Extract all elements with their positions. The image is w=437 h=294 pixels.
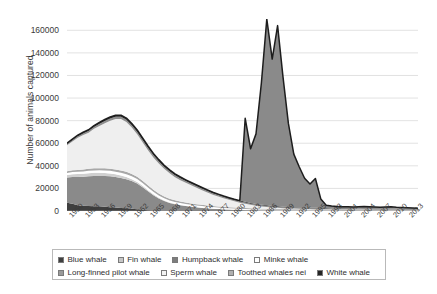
legend-label: White whale	[326, 268, 370, 278]
legend-swatch-icon	[58, 270, 64, 276]
y-axis-tick-labels: 0200004000060000800001000001200001400001…	[0, 0, 64, 211]
chart-legend: Blue whaleFin whaleHumpback whaleMinke w…	[52, 249, 386, 280]
legend-item[interactable]: Long-finned pilot whale	[58, 268, 150, 278]
y-tick-label: 80000	[35, 116, 59, 126]
y-tick-label: 120000	[31, 70, 59, 80]
legend-item[interactable]: White whale	[317, 268, 370, 278]
legend-item[interactable]: Minke whale	[254, 255, 308, 265]
y-tick-label: 40000	[35, 161, 59, 171]
legend-label: Blue whale	[68, 255, 107, 265]
legend-label: Toothed whales nei	[237, 268, 306, 278]
legend-row-2: Long-finned pilot whaleSperm whaleToothe…	[58, 266, 380, 279]
legend-label: Sperm whale	[170, 268, 217, 278]
y-tick-label: 140000	[31, 48, 59, 58]
legend-swatch-icon	[58, 257, 64, 263]
legend-row-1: Blue whaleFin whaleHumpback whaleMinke w…	[58, 253, 380, 266]
legend-label: Humpback whale	[182, 255, 243, 265]
legend-swatch-icon	[254, 257, 260, 263]
y-tick-label: 60000	[35, 138, 59, 148]
y-tick-label: 100000	[31, 93, 59, 103]
chart-container: Number of animals captured 0200004000060…	[0, 0, 437, 294]
x-axis-tick-labels: 1950195319561959196219651968197119741977…	[67, 213, 427, 249]
legend-item[interactable]: Blue whale	[58, 255, 107, 265]
y-tick-label: 0	[54, 206, 59, 216]
legend-item[interactable]: Humpback whale	[172, 255, 243, 265]
legend-item[interactable]: Toothed whales nei	[228, 268, 306, 278]
legend-item[interactable]: Sperm whale	[161, 268, 217, 278]
legend-swatch-icon	[172, 257, 178, 263]
legend-swatch-icon	[161, 270, 167, 276]
legend-label: Minke whale	[264, 255, 308, 265]
legend-item[interactable]: Fin whale	[118, 255, 162, 265]
legend-label: Fin whale	[127, 255, 161, 265]
legend-swatch-icon	[317, 270, 323, 276]
legend-swatch-icon	[228, 270, 234, 276]
legend-label: Long-finned pilot whale	[68, 268, 150, 278]
stacked-area-chart	[67, 19, 418, 211]
plot-area	[67, 19, 418, 211]
legend-swatch-icon	[118, 257, 124, 263]
y-tick-label: 160000	[31, 25, 59, 35]
y-tick-label: 20000	[35, 183, 59, 193]
